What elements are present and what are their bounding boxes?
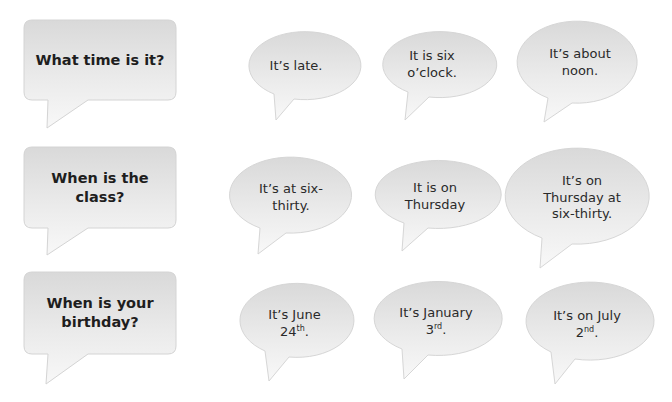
answer-bubble-r2-a2: It is on Thursday (368, 159, 504, 254)
question-text-line2: birthday? (46, 313, 153, 332)
answer-text-line2: 24th. (268, 324, 320, 341)
answer-text: It’s late. (270, 58, 323, 75)
answer-text-line2: thirty. (259, 198, 323, 215)
answer-text-line1: It is on (405, 180, 465, 197)
answer-text-line1: It’s January (399, 305, 472, 322)
answer-text-line1: It’s about (549, 46, 610, 63)
question-text-line1: When is the (51, 169, 148, 188)
answer-bubble-r1-a3: It’s about noon. (516, 18, 646, 128)
answer-text-line1: It’s at six- (259, 181, 323, 198)
question-bubble-when-birthday: When is your birthday? (0, 252, 200, 392)
answer-bubble-r3-a2: It’s January 3rd. (368, 281, 506, 381)
question-bubble-when-class: When is the class? (0, 127, 200, 262)
question-bubble-what-time: What time is it? (0, 0, 200, 135)
answer-text-line3: six-thirty. (543, 206, 621, 223)
question-text-line2: class? (51, 188, 148, 207)
answer-text-line2: 2nd. (553, 325, 621, 342)
answer-text-line1: It’s June (268, 307, 320, 324)
question-text-line1: When is your (46, 294, 153, 313)
answer-text-line2: noon. (549, 63, 610, 80)
answer-text-line2: o’clock. (407, 65, 457, 82)
answer-text-line2: Thursday at (543, 190, 621, 207)
answer-text-line2: Thursday (405, 197, 465, 214)
answer-text-line1: It is six (407, 48, 457, 65)
answer-bubble-r3-a1: It’s June 24th. (233, 283, 358, 383)
answer-bubble-r1-a1: It’s late. (236, 28, 358, 123)
answer-text-line1: It’s on (543, 173, 621, 190)
answer-bubble-r2-a1: It’s at six- thirty. (226, 156, 358, 256)
question-text: What time is it? (36, 51, 165, 70)
answer-bubble-r2-a3: It’s on Thursday at six-thirty. (506, 146, 662, 271)
answer-text-line2: 3rd. (399, 322, 472, 339)
answer-bubble-r3-a3: It’s on July 2nd. (519, 282, 657, 387)
answer-bubble-r1-a2: It is six o’clock. (371, 28, 493, 123)
answer-text-line1: It’s on July (553, 308, 621, 325)
